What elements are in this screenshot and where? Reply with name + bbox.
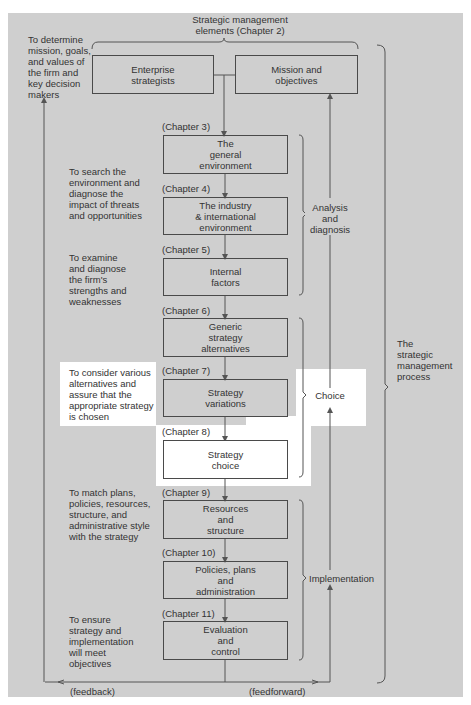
enterprise-strategists-box: Enterprise strategists bbox=[92, 55, 214, 94]
resources-structure-label: Resources and structure bbox=[203, 503, 248, 536]
chapter-8-label: (Chapter 8) bbox=[162, 426, 210, 437]
chapter-4-label: (Chapter 4) bbox=[162, 183, 210, 194]
resources-structure-box: Resources and structure bbox=[163, 500, 288, 539]
evaluation-control-label: Evaluation and control bbox=[203, 624, 247, 657]
phase-analysis-label: Analysis and diagnosis bbox=[305, 202, 355, 235]
mission-objectives-label: Mission and objectives bbox=[271, 64, 322, 86]
strategy-choice-box: Strategy choice bbox=[163, 440, 288, 479]
feedback-label: (feedback) bbox=[70, 686, 115, 697]
generic-strategy-box: Generic strategy alternatives bbox=[163, 318, 288, 357]
note-implementation: To match plans, policies, resources, str… bbox=[69, 487, 150, 542]
chapter-6-label: (Chapter 6) bbox=[162, 305, 210, 316]
header-title: Strategic management elements (Chapter 2… bbox=[170, 14, 310, 36]
mission-objectives-box: Mission and objectives bbox=[235, 55, 358, 94]
process-label: The strategic management process bbox=[397, 338, 452, 382]
internal-factors-label: Internal factors bbox=[210, 266, 242, 288]
chapter-7-label: (Chapter 7) bbox=[162, 365, 210, 376]
note-choice: To consider various alternatives and ass… bbox=[69, 367, 154, 422]
general-environment-label: The general environment bbox=[199, 138, 251, 171]
feedforward-label: (feedforward) bbox=[249, 686, 306, 697]
note-environment: To search the environment and diagnose t… bbox=[69, 166, 142, 221]
chapter-10-label: (Chapter 10) bbox=[162, 547, 215, 558]
internal-factors-box: Internal factors bbox=[163, 258, 288, 296]
strategy-variations-label: Strategy variations bbox=[205, 387, 246, 409]
policies-plans-label: Policies, plans and administration bbox=[195, 564, 256, 597]
industry-environment-box: The industry & international environment bbox=[163, 197, 288, 235]
strategy-variations-box: Strategy variations bbox=[163, 379, 288, 417]
phase-implementation-label: Implementation bbox=[309, 573, 376, 584]
policies-plans-box: Policies, plans and administration bbox=[163, 561, 288, 599]
chapter-11-label: (Chapter 11) bbox=[162, 608, 215, 619]
note-internal: To examine and diagnose the firm's stren… bbox=[69, 252, 127, 307]
note-mission: To determine mission, goals, and values … bbox=[28, 34, 91, 100]
chapter-3-label: (Chapter 3) bbox=[162, 121, 210, 132]
chapter-5-label: (Chapter 5) bbox=[162, 244, 210, 255]
phase-choice-label: Choice bbox=[310, 390, 350, 401]
evaluation-control-box: Evaluation and control bbox=[163, 621, 288, 660]
note-evaluation: To ensure strategy and implementation wi… bbox=[69, 614, 133, 669]
industry-environment-label: The industry & international environment bbox=[195, 200, 256, 233]
chapter-9-label: (Chapter 9) bbox=[162, 487, 210, 498]
strategy-choice-label: Strategy choice bbox=[208, 449, 243, 471]
general-environment-box: The general environment bbox=[163, 135, 288, 174]
generic-strategy-label: Generic strategy alternatives bbox=[201, 321, 250, 354]
enterprise-strategists-label: Enterprise strategists bbox=[131, 64, 174, 86]
